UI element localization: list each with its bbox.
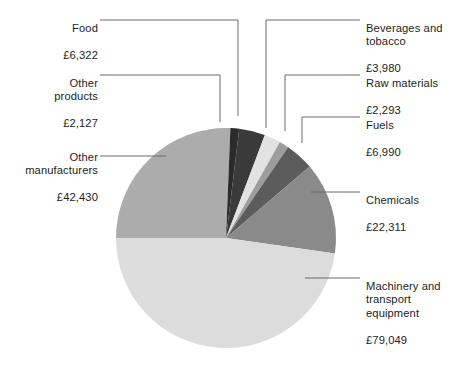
- slice-label-fuels-name: Fuels: [366, 119, 458, 133]
- slice-label-machinery-name: Machinery and transport equipment: [366, 280, 459, 321]
- slice-label-other-manufacturers: Other manufacturers £42,430: [2, 137, 98, 219]
- slice-label-beverages-name: Beverages and tobacco: [366, 22, 458, 49]
- slice-label-food-name: Food: [2, 22, 98, 36]
- slice-label-chemicals-name: Chemicals: [366, 194, 458, 208]
- slice-label-machinery-value: £79,049: [366, 334, 459, 348]
- leader-line-beverages: [266, 20, 360, 128]
- slice-label-food-value: £6,322: [2, 49, 98, 63]
- slice-label-machinery: Machinery and transport equipment £79,04…: [366, 266, 459, 361]
- pie-slice-other-manufacturers[interactable]: [116, 128, 230, 238]
- slice-label-chemicals-value: £22,311: [366, 221, 458, 235]
- leader-line-food: [100, 20, 238, 116]
- slice-label-chemicals: Chemicals £22,311: [366, 180, 458, 248]
- slice-label-other-manufacturers-name: Other manufacturers: [2, 151, 98, 178]
- slice-label-other-products: Other products £2,127: [2, 63, 98, 145]
- pie-slice-group: [116, 128, 336, 348]
- pie-slice-machinery[interactable]: [116, 238, 335, 348]
- leader-line-fuels: [302, 117, 360, 143]
- slice-label-other-products-value: £2,127: [2, 117, 98, 131]
- slice-label-raw-materials-name: Raw materials: [366, 77, 458, 91]
- slice-label-fuels: Fuels £6,990: [366, 105, 458, 173]
- slice-label-other-manufacturers-value: £42,430: [2, 191, 98, 205]
- slice-label-other-products-name: Other products: [2, 77, 98, 104]
- slice-label-fuels-value: £6,990: [366, 146, 458, 160]
- leader-line-other-products: [100, 75, 220, 122]
- pie-chart: Food £6,322 Other products £2,127 Other …: [0, 0, 459, 385]
- leader-line-raw-materials: [285, 75, 360, 131]
